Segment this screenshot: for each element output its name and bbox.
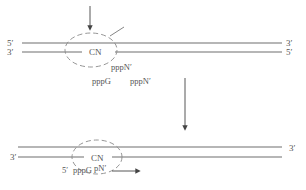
product-pn-label: pN′	[94, 163, 106, 173]
nucleotide-free-right: pppN′	[130, 76, 151, 86]
bottom-panel: 3′ 3′ CN 5′ pppG pN′	[10, 140, 296, 175]
bottom-lower-left-label: 3′	[10, 152, 17, 162]
top-lower-left-label: 3′	[7, 47, 14, 57]
nucleotide-pppg: pppG	[92, 76, 111, 86]
top-lower-right-label: 5′	[286, 47, 293, 57]
top-complex-label: CN	[89, 47, 102, 57]
product-pppg-label: pppG	[73, 165, 92, 175]
transcription-diagram: 5′ 3′ 3′ 5′ CN pppN′ pppG pppN′ 3′ 3′ CN…	[0, 0, 306, 190]
bottom-upper-right-label: 3′	[289, 143, 296, 153]
top-panel: 5′ 3′ 3′ 5′ CN pppN′ pppG pppN′	[7, 6, 293, 86]
product-prime-label: 5′	[62, 165, 68, 175]
pointer-line	[110, 27, 124, 36]
nucleotide-near: pppN′	[111, 62, 132, 72]
bottom-complex-label: CN	[91, 153, 104, 163]
